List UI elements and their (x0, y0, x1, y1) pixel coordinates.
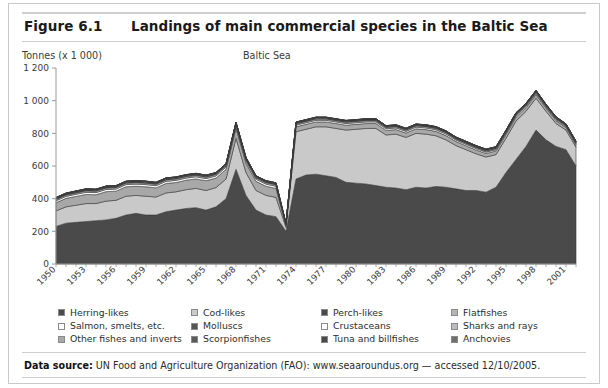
x-axis-tick-label-group: 2001 (545, 264, 568, 287)
x-axis-tick-label-group: 1974 (275, 264, 298, 287)
x-axis-tick-label: 2001 (545, 264, 568, 287)
y-axis-tick-label: 200 (32, 227, 49, 237)
x-axis-tick-label: 1953 (65, 264, 88, 287)
data-source-text: UN Food and Agriculture Organization (FA… (93, 360, 541, 371)
legend-item: Tuna and billfishes (321, 334, 451, 344)
x-axis-tick-label-group: 1953 (65, 264, 88, 287)
legend-label: Salmon, smelts, etc. (70, 321, 165, 331)
legend-label: Flatfishes (463, 308, 507, 318)
footer-rule-top (22, 352, 586, 353)
legend-item: Salmon, smelts, etc. (58, 321, 191, 331)
x-axis-tick-label: 1995 (485, 264, 508, 287)
legend-swatch-icon (321, 323, 328, 330)
x-axis-tick-label-group: 1998 (515, 264, 538, 287)
legend-label: Sharks and rays (463, 321, 538, 331)
legend-item: Cod-likes (191, 308, 321, 318)
legend-swatch-icon (58, 309, 65, 316)
stacked-area-chart: 02004006008001 0001 20019501953195619591… (22, 62, 582, 294)
legend-item: Sharks and rays (451, 321, 571, 331)
footer-rule-bottom (22, 377, 586, 378)
legend-label: Scorpionfishes (203, 334, 271, 344)
x-axis-tick-label-group: 1950 (35, 264, 58, 287)
x-axis-tick-label: 1974 (275, 264, 298, 287)
x-axis-tick-label: 1980 (335, 264, 358, 287)
x-axis-tick-label-group: 1980 (335, 264, 358, 287)
x-axis-tick-label: 1965 (185, 264, 208, 287)
header-rule-top (22, 12, 586, 14)
y-axis-tick-label: 1 000 (23, 96, 49, 106)
legend-label: Herring-likes (70, 308, 129, 318)
x-axis-tick-label-group: 1986 (395, 264, 418, 287)
x-axis-tick-label: 1959 (125, 264, 148, 287)
legend-swatch-icon (451, 323, 458, 330)
x-axis-tick-label-group: 1956 (95, 264, 118, 287)
x-axis-tick-label-group: 1995 (485, 264, 508, 287)
legend-item: Other fishes and inverts (58, 334, 191, 344)
legend-label: Tuna and billfishes (333, 334, 419, 344)
y-axis-unit-label: Tonnes (x 1 000) (22, 50, 102, 61)
x-axis-tick-label-group: 1965 (185, 264, 208, 287)
legend-item: Herring-likes (58, 308, 191, 318)
legend-label: Anchovies (463, 334, 511, 344)
x-axis-tick-label: 1968 (215, 264, 238, 287)
figure-number: Figure 6.1 (24, 18, 103, 34)
x-axis-tick-label-group: 1959 (125, 264, 148, 287)
x-axis-tick-label-group: 1989 (425, 264, 448, 287)
x-axis-tick-label: 1983 (365, 264, 388, 287)
legend-swatch-icon (191, 309, 198, 316)
legend-swatch-icon (58, 323, 65, 330)
header-rule-bottom (22, 41, 586, 42)
y-axis-tick-label: 600 (32, 161, 49, 171)
legend-swatch-icon (321, 336, 328, 343)
legend-label: Other fishes and inverts (70, 334, 182, 344)
x-axis-tick-label: 1989 (425, 264, 448, 287)
legend-item: Anchovies (451, 334, 571, 344)
legend-swatch-icon (191, 323, 198, 330)
data-source-label: Data source: (24, 360, 93, 371)
legend-label: Crustaceans (333, 321, 391, 331)
legend-swatch-icon (191, 336, 198, 343)
x-axis-tick-label: 1962 (155, 264, 178, 287)
figure-page: Figure 6.1 Landings of main commercial s… (0, 0, 608, 388)
x-axis-tick-label: 1992 (455, 264, 478, 287)
data-source: Data source: UN Food and Agriculture Org… (24, 360, 540, 371)
x-axis-tick-label: 1998 (515, 264, 538, 287)
legend-item: Perch-likes (321, 308, 451, 318)
x-axis-tick-label: 1956 (95, 264, 118, 287)
x-axis-tick-label-group: 1983 (365, 264, 388, 287)
legend-item: Molluscs (191, 321, 321, 331)
x-axis-tick-label-group: 1971 (245, 264, 268, 287)
x-axis-tick-label: 1986 (395, 264, 418, 287)
chart-region-label: Baltic Sea (243, 50, 291, 61)
legend-label: Perch-likes (333, 308, 383, 318)
x-axis-tick-label: 1977 (305, 264, 328, 287)
x-axis-tick-label-group: 1962 (155, 264, 178, 287)
legend-swatch-icon (321, 309, 328, 316)
x-axis-tick-label-group: 1992 (455, 264, 478, 287)
x-axis-tick-label: 1950 (35, 264, 58, 287)
y-axis-tick-label: 400 (32, 194, 49, 204)
x-axis-tick-label-group: 1977 (305, 264, 328, 287)
x-axis-tick-label-group: 1968 (215, 264, 238, 287)
chart-legend: Herring-likesCod-likesPerch-likesFlatfis… (58, 306, 578, 346)
legend-swatch-icon (451, 336, 458, 343)
legend-item: Crustaceans (321, 321, 451, 331)
legend-swatch-icon (58, 336, 65, 343)
y-axis-tick-label: 1 200 (23, 63, 49, 73)
legend-label: Molluscs (203, 321, 243, 331)
legend-item: Scorpionfishes (191, 334, 321, 344)
legend-item: Flatfishes (451, 308, 571, 318)
legend-label: Cod-likes (203, 308, 245, 318)
figure-title: Landings of main commercial species in t… (131, 18, 548, 34)
legend-swatch-icon (451, 309, 458, 316)
y-axis-tick-label: 800 (32, 129, 49, 139)
chart-plot-area: 02004006008001 0001 20019501953195619591… (22, 62, 582, 294)
x-axis-tick-label: 1971 (245, 264, 268, 287)
